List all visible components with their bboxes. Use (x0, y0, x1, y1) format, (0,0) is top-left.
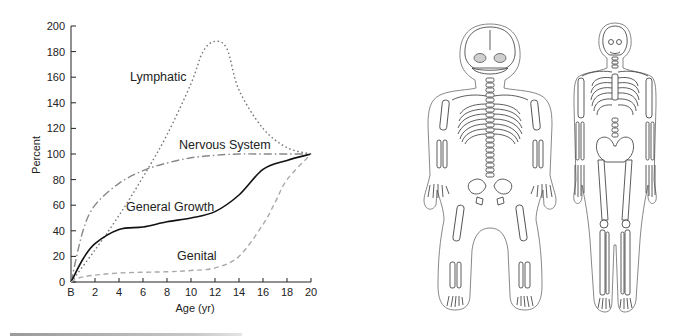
newborn-spine (486, 78, 494, 177)
y-tick-label: 40 (53, 225, 65, 237)
x-tick-label: 16 (257, 286, 269, 298)
y-axis-title: Percent (30, 136, 42, 174)
x-tick-label: 2 (92, 286, 98, 298)
y-tick-label: 20 (53, 250, 65, 262)
y-tick-label: 200 (47, 20, 65, 32)
x-tick-label: 8 (164, 286, 170, 298)
genital-label: Genital (177, 249, 217, 263)
x-tick-label: 4 (116, 286, 122, 298)
series-group (71, 41, 311, 282)
lymphatic-curve (71, 41, 311, 282)
y-tick-label: 100 (47, 148, 65, 160)
general-growth-label: General Growth (126, 200, 214, 214)
x-axis: B2468101214161820 (67, 278, 317, 298)
y-tick-label: 60 (53, 199, 65, 211)
y-tick-label: 120 (47, 122, 65, 134)
y-tick-label: 160 (47, 71, 65, 83)
y-tick-label: 0 (59, 276, 65, 288)
skeleton-illustration (400, 0, 687, 336)
newborn-skeleton-figure (424, 24, 556, 310)
x-tick-label: B (67, 286, 74, 298)
y-axis: 020406080100120140160180200 (47, 20, 76, 288)
adult-skeleton-figure (574, 23, 657, 312)
x-tick-label: 6 (140, 286, 146, 298)
y-tick-label: 180 (47, 46, 65, 58)
x-tick-label: 14 (233, 286, 245, 298)
y-tick-label: 140 (47, 97, 65, 109)
x-axis-title: Age (yr) (175, 302, 214, 314)
growth-curves-chart: 020406080100120140160180200 B24681012141… (0, 0, 400, 336)
nervous-system-label: Nervous System (179, 138, 271, 152)
lymphatic-label: Lymphatic (130, 70, 187, 84)
x-tick-label: 20 (305, 286, 317, 298)
x-tick-label: 10 (185, 286, 197, 298)
x-tick-label: 12 (209, 286, 221, 298)
y-tick-label: 80 (53, 174, 65, 186)
x-tick-label: 18 (281, 286, 293, 298)
